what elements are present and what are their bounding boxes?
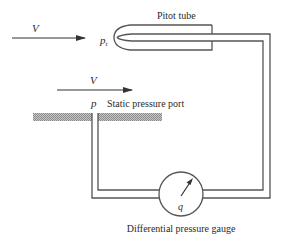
pitot-tube-label: Pitot tube (157, 10, 196, 21)
velocity-label-top: V (32, 22, 40, 34)
total-pressure-line (203, 34, 270, 198)
static-pressure-label: p (90, 97, 97, 109)
gauge-symbol-label: q (178, 201, 183, 212)
total-pressure-label: pt (99, 34, 109, 48)
static-port-label: Static pressure port (107, 98, 184, 109)
pitot-tube (114, 25, 212, 50)
velocity-label-wall: V (90, 74, 98, 86)
total-pressure-subscript: t (106, 40, 109, 48)
pitot-static-diagram: V pt Pitot tube V p Static pressure port (0, 0, 288, 242)
differential-pressure-gauge: q (159, 172, 203, 216)
gauge-label: Differential pressure gauge (127, 223, 236, 234)
static-pressure-line (92, 113, 159, 198)
